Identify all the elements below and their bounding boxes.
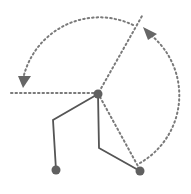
center-joint (94, 90, 103, 99)
left-arrowhead-icon (18, 76, 31, 88)
left-arm (53, 94, 98, 170)
diagonal-upper-reference-line (99, 16, 142, 92)
left-end-effector (52, 166, 61, 175)
right-rotation-arc (140, 36, 179, 163)
upper-rotation-arc (24, 17, 133, 75)
right-end-effector (136, 167, 145, 176)
rotation-diagram (0, 0, 191, 194)
diagonal-lower-reference-line (100, 97, 139, 168)
